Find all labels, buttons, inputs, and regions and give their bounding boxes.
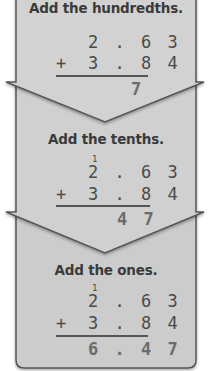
step-title: Add the hundredths. (0, 0, 212, 16)
sum-line (56, 205, 150, 207)
sum-line (56, 75, 148, 77)
step-title: Add the tenths. (0, 131, 212, 147)
addend-1: 2 . 6 3 (88, 162, 181, 182)
step-title: Add the ones. (0, 262, 212, 278)
final-sum: 6 . 4 7 (88, 339, 181, 359)
addend-2: 3 . 8 4 (88, 53, 181, 73)
plus-sign: + (56, 313, 69, 333)
decimal-addition-diagram: Add the hundredths. 2 . 6 3 + 3 . 8 4 7 … (0, 0, 212, 371)
plus-sign: + (56, 53, 69, 73)
partial-sum: 4 7 (117, 209, 157, 229)
addend-2: 3 . 8 4 (88, 184, 181, 204)
sum-line (56, 335, 148, 337)
addend-2: 3 . 8 4 (88, 313, 181, 333)
addend-1: 2 . 6 3 (88, 32, 181, 52)
addend-1: 2 . 6 3 (88, 291, 181, 311)
partial-sum: 7 (131, 79, 144, 99)
plus-sign: + (56, 184, 69, 204)
